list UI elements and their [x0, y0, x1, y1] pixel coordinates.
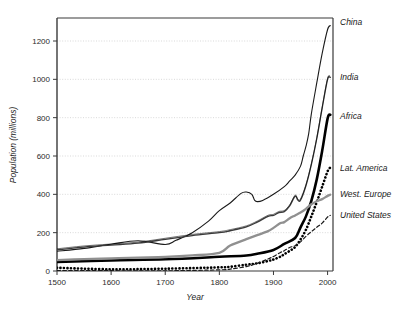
- series-label-lat-america: Lat. America: [340, 163, 388, 173]
- x-tick-label-1900: 1900: [265, 278, 283, 287]
- x-tick-label-1500: 1500: [48, 278, 66, 287]
- x-tick-label-1600: 1600: [102, 278, 120, 287]
- y-tick-label-200: 200: [37, 229, 51, 238]
- series-label-africa: Africa: [339, 111, 362, 121]
- x-tick-label-1800: 1800: [210, 278, 228, 287]
- y-tick-label-600: 600: [37, 152, 51, 161]
- y-axis-title: Population (millions): [8, 107, 18, 184]
- y-tick-label-800: 800: [37, 114, 51, 123]
- y-tick-label-400: 400: [37, 190, 51, 199]
- series-label-west-europe: West. Europe: [340, 189, 392, 199]
- x-axis-title: Year: [186, 292, 205, 302]
- x-tick-label-2000: 2000: [319, 278, 337, 287]
- population-line-chart: 020040060080010001200 150016001700180019…: [0, 0, 404, 319]
- series-label-china: China: [340, 17, 362, 27]
- series-label-united-states: United States: [340, 210, 392, 220]
- series-label-india: India: [340, 72, 359, 82]
- y-tick-label-1000: 1000: [32, 75, 50, 84]
- x-tick-label-1700: 1700: [156, 278, 174, 287]
- y-tick-label-0: 0: [46, 267, 51, 276]
- y-tick-label-1200: 1200: [32, 37, 50, 46]
